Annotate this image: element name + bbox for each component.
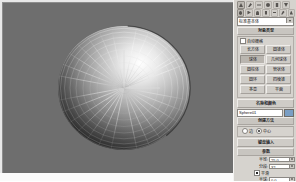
object-category-tabs [234, 9, 296, 16]
creation-method-rollout-title[interactable]: 创建方法 [237, 117, 294, 125]
radius-spinner-arrows[interactable] [290, 157, 295, 162]
segments-label: 分段: [252, 163, 268, 169]
command-panel: 标准基本体 对象类型 自动栅格 长方体 圆锥体 球体 几何球体 圆柱体 管状体 … [233, 0, 296, 181]
helpers-category[interactable] [271, 9, 278, 17]
object-button-teapot[interactable]: 茶壶 [240, 85, 265, 94]
viewport-frame [0, 0, 233, 173]
autogrid-checkbox[interactable] [240, 38, 246, 44]
hemisphere-spinner[interactable]: 0.0 [269, 177, 295, 182]
object-button-plane[interactable]: 平面 [266, 85, 291, 94]
create-tab[interactable] [237, 1, 245, 9]
systems-category[interactable] [288, 9, 295, 17]
segments-value[interactable]: 32 [269, 164, 290, 169]
object-button-pyramid[interactable]: 四棱锥 [266, 75, 291, 84]
shapes-category[interactable] [245, 9, 252, 17]
object-type-rollout-title[interactable]: 对象类型 [237, 27, 294, 35]
creation-method-group: 边 中心 [237, 126, 294, 137]
edge-radio[interactable] [242, 128, 248, 134]
object-type-group: 自动栅格 长方体 圆锥体 球体 几何球体 圆柱体 管状体 圆环 四棱锥 茶壶 平… [237, 36, 294, 98]
creation-method-edge[interactable]: 边 [241, 128, 253, 134]
name-color-row: Sphere01 [237, 109, 294, 116]
segments-spinner-arrows[interactable] [290, 164, 295, 169]
object-button-cylinder[interactable]: 圆柱体 [240, 65, 265, 74]
segments-row: 分段: 32 [236, 163, 295, 169]
radius-spinner[interactable]: 25.0 [269, 157, 295, 162]
creation-method-center[interactable]: 中心 [255, 128, 271, 134]
object-button-box[interactable]: 长方体 [240, 45, 265, 54]
center-label: 中心 [263, 129, 271, 134]
hemisphere-label: 半球: [252, 176, 268, 181]
sphere-object[interactable] [2, 2, 233, 173]
display-tab[interactable] [273, 1, 281, 9]
utilities-tab[interactable] [282, 1, 290, 9]
geometry-category[interactable] [237, 9, 244, 17]
autogrid-label: 自动栅格 [247, 39, 263, 44]
object-name-input[interactable]: Sphere01 [237, 109, 283, 117]
perspective-viewport[interactable] [2, 2, 233, 173]
application-window: 标准基本体 对象类型 自动栅格 长方体 圆锥体 球体 几何球体 圆柱体 管状体 … [0, 0, 296, 181]
hemisphere-value[interactable]: 0.0 [269, 177, 290, 182]
status-area [0, 173, 233, 181]
hierarchy-tab[interactable] [255, 1, 263, 9]
object-button-cone[interactable]: 圆锥体 [266, 45, 291, 54]
lights-category[interactable] [254, 9, 261, 17]
object-button-torus[interactable]: 圆环 [240, 75, 265, 84]
parameters-rollout-title[interactable]: 参数 [237, 148, 294, 156]
radius-value[interactable]: 25.0 [269, 157, 290, 162]
center-radio[interactable] [256, 128, 262, 134]
name-color-rollout-title[interactable]: 名称和颜色 [237, 99, 294, 108]
smooth-checkbox[interactable] [254, 170, 260, 176]
object-type-buttons: 长方体 圆锥体 球体 几何球体 圆柱体 管状体 圆环 四棱锥 茶壶 平面 [239, 44, 292, 95]
hemisphere-row: 半球: 0.0 [236, 176, 295, 181]
radius-row: 半径: 25.0 [236, 156, 295, 162]
hemisphere-spinner-arrows[interactable] [290, 177, 295, 182]
segments-spinner[interactable]: 32 [269, 164, 295, 169]
edge-label: 边 [249, 129, 253, 134]
command-panel-tabs [234, 0, 296, 9]
spacewarps-category[interactable] [279, 9, 286, 17]
radius-label: 半径: [252, 156, 268, 162]
category-dropdown[interactable]: 标准基本体 [237, 17, 294, 26]
creation-method-options: 边 中心 [239, 128, 292, 134]
motion-tab[interactable] [264, 1, 272, 9]
chevron-down-icon[interactable] [286, 18, 293, 23]
object-button-geosphere[interactable]: 几何球体 [266, 55, 291, 64]
object-button-tube[interactable]: 管状体 [266, 65, 291, 74]
modify-tab[interactable] [246, 1, 254, 9]
category-dropdown-value: 标准基本体 [238, 18, 259, 25]
object-color-swatch[interactable] [284, 109, 294, 117]
object-button-sphere[interactable]: 球体 [240, 55, 265, 64]
keyboard-entry-rollout-title[interactable]: 键盘输入 [237, 138, 294, 147]
cameras-category[interactable] [262, 9, 269, 17]
smooth-label: 平滑 [261, 171, 269, 176]
